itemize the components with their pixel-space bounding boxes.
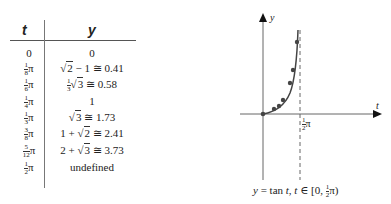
y-value: 2 + √3 ≅ 3.73	[46, 144, 138, 157]
t-value: 18π	[14, 62, 44, 77]
t-value: 512π	[14, 144, 44, 159]
y-value: undefined	[46, 161, 138, 173]
y-axis-label: y	[270, 12, 274, 23]
values-table: t y 0 0 18π √2 − 1 ≅ 0.41 16π 13√3 ≅ 0.5…	[0, 0, 140, 204]
t-axis-arrow-icon	[373, 110, 382, 118]
tan-graph	[230, 0, 391, 204]
table-row: 13π √3 ≅ 1.73	[0, 111, 140, 127]
table-row: 14π 1	[0, 95, 140, 111]
header-y: y	[88, 22, 96, 38]
y-value: 13√3 ≅ 0.58	[46, 78, 138, 93]
header-divider	[10, 40, 136, 41]
t-value: 38π	[14, 127, 44, 142]
y-axis-arrow-icon	[259, 13, 267, 22]
t-value: 0	[14, 47, 44, 59]
y-value: 0	[46, 47, 138, 59]
asymptote-label: 12π	[302, 117, 311, 132]
table-row: 18π √2 − 1 ≅ 0.41	[0, 62, 140, 78]
t-value: 16π	[14, 78, 44, 93]
table-row: 38π 1 + √2 ≅ 2.41	[0, 127, 140, 143]
graph-caption: y = tan t, t ∈ [0, 12π)	[253, 184, 338, 199]
table-row: 512π 2 + √3 ≅ 3.73	[0, 144, 140, 160]
y-value: √3 ≅ 1.73	[46, 111, 138, 124]
t-value: 12π	[14, 161, 44, 176]
t-axis-label: t	[376, 100, 379, 111]
table-row: 12π undefined	[0, 161, 140, 177]
y-value: 1	[46, 95, 138, 107]
t-value: 13π	[14, 111, 44, 126]
header-t: t	[22, 22, 27, 38]
y-value: 1 + √2 ≅ 2.41	[46, 127, 138, 140]
table-row: 16π 13√3 ≅ 0.58	[0, 78, 140, 94]
y-value: √2 − 1 ≅ 0.41	[46, 62, 138, 75]
t-value: 14π	[14, 95, 44, 110]
